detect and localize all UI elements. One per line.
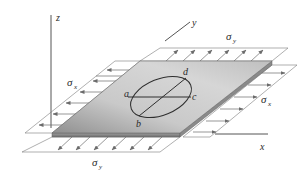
sigma-y-bottom-arrows [22, 137, 180, 152]
plate [52, 61, 272, 137]
svg-text:σ: σ [226, 30, 232, 42]
sigma-x-right-label: σ x [261, 93, 272, 108]
y-axis: y [165, 17, 197, 41]
x-axis: x [215, 134, 268, 152]
plate-stress-diagram: z y x [0, 0, 306, 177]
svg-text:σ: σ [92, 156, 98, 168]
point-a-label: a [124, 88, 129, 99]
z-axis: z [51, 12, 60, 128]
svg-text:σ: σ [67, 76, 73, 88]
point-c-label: c [192, 91, 197, 102]
sigma-y-bottom-label: σ y [92, 156, 103, 171]
svg-text:y: y [98, 163, 103, 171]
svg-text:y: y [232, 37, 237, 45]
sigma-y-top-label: σ y [226, 30, 237, 45]
point-b-label: b [136, 118, 141, 129]
z-axis-label: z [55, 12, 60, 23]
svg-text:x: x [73, 83, 78, 91]
x-axis-label: x [259, 141, 265, 152]
svg-text:x: x [267, 100, 272, 108]
svg-text:σ: σ [261, 93, 267, 105]
sigma-y-top-arrows [140, 48, 288, 61]
sigma-x-left-label: σ x [67, 76, 78, 91]
y-axis-label: y [191, 17, 197, 28]
